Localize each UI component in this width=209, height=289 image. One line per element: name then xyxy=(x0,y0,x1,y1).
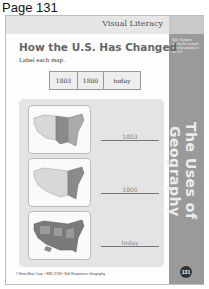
section-tag: Visual Literacy xyxy=(102,19,163,28)
answer-line-3[interactable]: today xyxy=(101,239,159,247)
instruction: Label each map. xyxy=(19,57,65,63)
map-1803-image xyxy=(28,105,91,154)
us-map-1803-icon xyxy=(32,110,87,150)
word-bank-item: 1800 xyxy=(78,72,104,89)
sidebar: Note: Students identify the changes in t… xyxy=(169,16,204,284)
map-today-image xyxy=(28,211,91,260)
sidebar-vertical-title: The Uses of Geography xyxy=(173,76,199,266)
answer-line-1[interactable]: 1803 xyxy=(101,133,159,141)
word-bank-item: today xyxy=(104,72,140,89)
footer-copyright: © Evan-Moor Corp. • EMC 3743 • Skill Sha… xyxy=(16,272,105,276)
header-band: Visual Literacy xyxy=(6,16,169,34)
page-number-badge: 131 xyxy=(180,266,192,278)
answer-line-2[interactable]: 1800 xyxy=(101,186,159,194)
page-label: Page 131 xyxy=(2,0,58,15)
map-1800-image xyxy=(28,158,91,207)
word-bank: 1803 1800 today xyxy=(49,71,141,90)
word-bank-item: 1803 xyxy=(50,72,78,89)
sidebar-top xyxy=(169,16,204,34)
page-title: How the U.S. Has Changed xyxy=(19,41,177,53)
maps-panel: 1803 1800 today xyxy=(19,99,164,267)
worksheet-page: Visual Literacy Note: Students identify … xyxy=(5,15,204,285)
us-map-today-icon xyxy=(32,216,87,256)
us-map-1800-icon xyxy=(32,163,87,203)
